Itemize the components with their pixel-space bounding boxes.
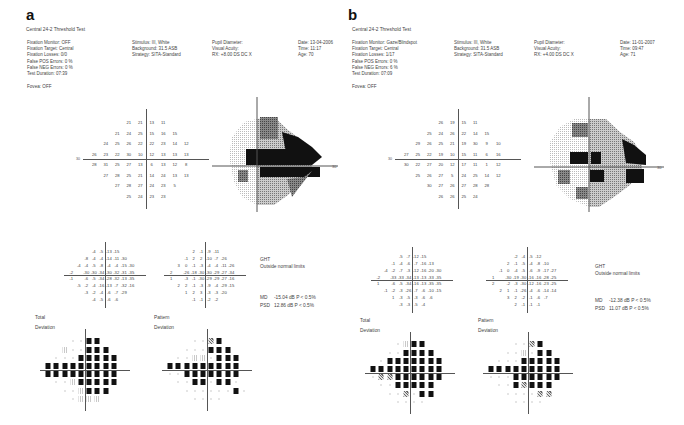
probability-symbol xyxy=(379,374,384,380)
grid-value: 27 xyxy=(103,172,108,177)
pattern-deviation-label: Pattern Deviation xyxy=(154,313,174,333)
grid-value: -6 xyxy=(529,267,533,272)
probability-symbol xyxy=(64,357,65,358)
probability-symbol xyxy=(95,363,100,369)
probability-symbol xyxy=(428,358,433,364)
probability-symbol xyxy=(194,341,195,342)
stimulus-info: Stimulus: III, White Background: 31.5 AS… xyxy=(132,40,181,59)
probability-symbol xyxy=(428,374,433,380)
probability-symbol xyxy=(499,360,500,361)
probability-symbol xyxy=(436,374,441,380)
grid-value: 11 xyxy=(473,120,477,125)
grid-value: -26 xyxy=(221,256,227,261)
grid-value: 1 xyxy=(170,276,172,281)
ght-value: Outside normal limits xyxy=(595,271,640,276)
grid-value: -32 xyxy=(113,269,119,274)
grid-value: -29 xyxy=(213,276,219,281)
probability-symbol xyxy=(87,379,92,385)
grid-value: -13 xyxy=(106,249,112,254)
grid-value: 21 xyxy=(138,120,143,125)
probability-symbol xyxy=(194,390,195,391)
probability-symbol xyxy=(233,371,238,377)
probability-symbol xyxy=(395,358,400,364)
grid-value: -15 xyxy=(121,262,127,267)
grid-value: -16 xyxy=(228,276,234,281)
probability-symbol xyxy=(219,390,220,391)
probability-symbol xyxy=(403,391,408,397)
grid-value: -12 xyxy=(535,254,541,259)
probability-symbol xyxy=(507,385,508,386)
probability-symbol xyxy=(168,363,173,369)
grid-value: -33 xyxy=(390,274,396,279)
grid-value: -20 xyxy=(221,290,227,295)
grid-value: 12 xyxy=(149,151,154,156)
grid-value: -3 xyxy=(184,276,188,281)
md-value: -12.38 dB P < 0.5% xyxy=(609,298,651,303)
probability-symbol xyxy=(523,401,524,402)
probability-symbol xyxy=(87,338,92,344)
probability-symbol xyxy=(397,393,398,394)
grid-value: -30 xyxy=(106,269,112,274)
grid-value: -5 xyxy=(99,249,103,254)
probability-symbol xyxy=(515,393,516,394)
grid-value: -7 xyxy=(399,267,403,272)
grid-value: -9 xyxy=(207,283,211,288)
grid-value: 19 xyxy=(450,120,455,125)
grid-value: -3 xyxy=(207,290,211,295)
probability-symbol xyxy=(111,371,116,377)
probability-symbol xyxy=(546,374,551,380)
grid-value: 11 xyxy=(473,162,477,167)
grid-value: 26 xyxy=(438,193,443,198)
grid-value: -6 xyxy=(391,281,395,286)
vertical-axis xyxy=(528,332,529,414)
probability-symbol xyxy=(62,363,67,369)
vertical-axis xyxy=(458,109,459,210)
probability-symbol xyxy=(513,374,518,380)
grid-value: -15 xyxy=(113,249,119,254)
probability-symbol xyxy=(72,398,73,399)
grid-value: -7 xyxy=(414,288,418,293)
grid-value: 2 xyxy=(185,283,187,288)
probability-symbol xyxy=(412,350,417,356)
grid-value: -1 xyxy=(536,301,540,306)
grid-value: -5 xyxy=(521,267,525,272)
grid-value: 26 xyxy=(450,130,455,135)
grid-value: 19 xyxy=(438,151,443,156)
grid-value: 1 xyxy=(392,295,394,300)
grid-value: -33 xyxy=(428,274,434,279)
grid-value: 26 xyxy=(427,141,432,146)
grid-value: -28 xyxy=(543,274,549,279)
grid-value: -13 xyxy=(121,276,127,281)
grid-value: -4 xyxy=(92,256,96,261)
grid-value: -4 xyxy=(114,262,118,267)
probability-symbol xyxy=(202,398,203,399)
probability-symbol xyxy=(389,385,390,386)
grid-value: 30 xyxy=(404,162,409,167)
panel-letter: b xyxy=(348,6,357,23)
grid-value: -30 xyxy=(83,269,89,274)
grid-value: 14 xyxy=(172,141,177,146)
grid-value: -16 xyxy=(98,283,104,288)
probability-symbol xyxy=(80,341,81,342)
probability-symbol xyxy=(395,382,400,388)
grid-value: -3 xyxy=(514,281,518,286)
grid-value: -14 xyxy=(550,288,556,293)
test-title: Central 24-2 Threshold Test xyxy=(26,27,85,32)
grid-value: 12 xyxy=(450,162,455,167)
grid-value: 15 xyxy=(484,130,489,135)
vertical-axis xyxy=(207,329,208,411)
probability-symbol xyxy=(227,390,228,391)
grid-value: -4 xyxy=(384,267,388,272)
probability-symbol xyxy=(507,352,508,353)
probability-symbol xyxy=(414,401,415,402)
grid-value: 28 xyxy=(126,183,131,188)
grid-value: 22 xyxy=(138,141,143,146)
grid-value: -33 xyxy=(398,274,404,279)
probability-symbol xyxy=(217,379,222,385)
grid-value: 26 xyxy=(438,120,443,125)
grid-value: -35 xyxy=(128,276,134,281)
grid-value: 13 xyxy=(138,162,143,167)
grid-value: 25 xyxy=(115,141,120,146)
probability-symbol xyxy=(387,358,392,364)
probability-symbol xyxy=(80,349,81,350)
